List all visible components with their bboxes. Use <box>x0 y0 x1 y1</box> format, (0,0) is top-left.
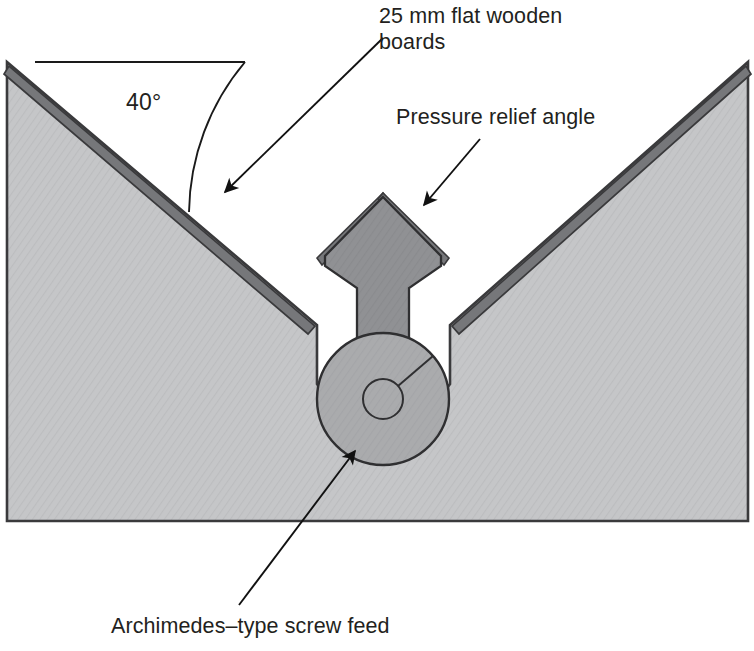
angle-label: 40° <box>126 88 161 116</box>
relief-leader-line <box>424 139 480 205</box>
screw-outer-circle <box>317 333 449 465</box>
boards-leader-line <box>225 38 383 192</box>
relief-cone-shaft <box>325 197 441 340</box>
archimedes-screw-feed <box>317 333 449 465</box>
hopper-cross-section-svg <box>0 0 754 651</box>
screw-feed-callout-label: Archimedes–type screw feed <box>111 613 390 639</box>
pressure-relief-cone <box>317 193 449 340</box>
angle-arc <box>189 62 245 212</box>
boards-callout-label: 25 mm flat wooden boards <box>379 3 562 55</box>
diagram-canvas: 40° 25 mm flat wooden boards Pressure re… <box>0 0 754 651</box>
pressure-relief-callout-label: Pressure relief angle <box>396 104 595 130</box>
